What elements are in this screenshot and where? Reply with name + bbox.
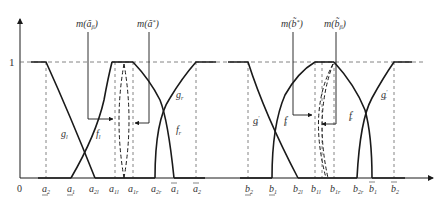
svg-text:a1r: a1r <box>128 183 139 195</box>
left-m-markers <box>88 32 149 123</box>
curve-f-l <box>71 62 112 178</box>
svg-text:a1l: a1l <box>109 183 119 195</box>
label-g-r: gr <box>176 89 184 101</box>
svg-text:b1l: b1l <box>311 183 321 195</box>
svg-text:m(ãβ): m(ãβ) <box>76 18 99 30</box>
svg-text:b1: b1 <box>269 183 277 195</box>
label-m-b-star: m(b̃*) <box>281 17 304 30</box>
label-m-a-beta: m(ãβ) <box>76 18 99 30</box>
right-inner-dashed-curves <box>318 64 333 178</box>
svg-text:m(b̃*): m(b̃*) <box>281 17 304 30</box>
m-b-star-line <box>293 32 312 115</box>
label-f-r-prime: f′r <box>349 110 354 122</box>
label-g-l: gl <box>61 128 68 140</box>
curve-f-r-prime-rise <box>357 62 412 178</box>
svg-text:b2r: b2r <box>353 183 364 195</box>
fuzzy-diagram: 1 0 m(ãβ) m(ã*) m(b̃*) m(b̃β) gl fl gr f… <box>0 0 439 208</box>
label-f-l: fl <box>96 128 101 140</box>
left-inner-dashed-curves <box>119 64 129 178</box>
svg-text:b2: b2 <box>391 183 399 195</box>
right-m-markers <box>293 32 336 124</box>
svg-text:m(b̃β): m(b̃β) <box>324 17 347 30</box>
label-f-r: fr <box>176 124 182 136</box>
label-m-b-beta: m(b̃β) <box>324 17 347 30</box>
svg-text:a2: a2 <box>193 183 201 195</box>
label-m-a-star: m(ã*) <box>137 18 160 30</box>
svg-text:m(ã*): m(ã*) <box>137 18 160 30</box>
svg-text:b2: b2 <box>245 183 253 195</box>
svg-text:a1: a1 <box>67 183 75 195</box>
curve-f-l-prime <box>272 62 315 178</box>
svg-text:a2l: a2l <box>89 183 99 195</box>
left-membership-curves <box>31 62 216 178</box>
svg-text:a2: a2 <box>42 183 50 195</box>
label-g-r-prime: g′r <box>381 89 388 101</box>
x-tick-labels-left: a2 a1 a2l a1l a1r a2r a1 a2 <box>42 183 201 195</box>
curve-g-r-fall <box>133 62 174 178</box>
svg-text:b1r: b1r <box>330 183 341 195</box>
x-tick-labels-right: b2 b1 b2l b1l b1r b2r b1 b2 <box>245 182 399 195</box>
one-label: 1 <box>9 56 15 68</box>
svg-text:a1: a1 <box>171 183 179 195</box>
curve-g-r-prime-fall <box>334 62 372 178</box>
svg-text:b1: b1 <box>369 183 377 195</box>
svg-text:a2r: a2r <box>151 183 162 195</box>
label-g-l-prime: g′l <box>253 115 260 127</box>
curve-f-r-rise <box>155 62 216 178</box>
origin-label: 0 <box>17 183 22 194</box>
curve-g-l <box>31 62 95 178</box>
svg-text:b2l: b2l <box>293 183 303 195</box>
label-f-l-prime: f′l <box>284 115 289 127</box>
